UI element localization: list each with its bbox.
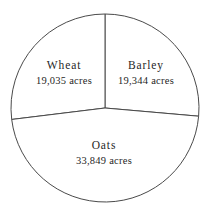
- pie-label-barley-value: 19,344 acres: [118, 74, 174, 87]
- pie-chart-figure: Wheat 19,035 acres Barley 19,344 acres O…: [0, 0, 210, 216]
- pie-label-oats-value: 33,849 acres: [76, 154, 132, 167]
- pie-label-oats: Oats 33,849 acres: [76, 138, 132, 167]
- pie-label-barley: Barley 19,344 acres: [118, 58, 174, 87]
- pie-label-wheat-value: 19,035 acres: [36, 74, 92, 87]
- pie-label-wheat-name: Wheat: [36, 58, 92, 73]
- pie-chart-canvas: [0, 0, 210, 216]
- pie-label-barley-name: Barley: [118, 58, 174, 73]
- pie-label-oats-name: Oats: [76, 138, 132, 153]
- pie-label-wheat: Wheat 19,035 acres: [36, 58, 92, 87]
- pie-slices: [11, 14, 199, 202]
